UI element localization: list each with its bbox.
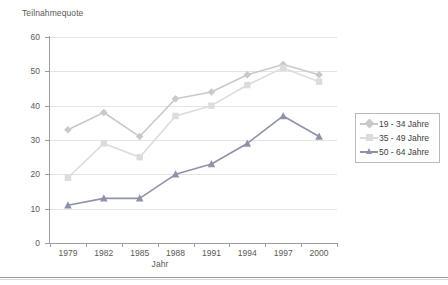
data-point-marker: [208, 102, 214, 108]
x-axis-title: Jahr: [0, 259, 320, 269]
data-point-marker: [65, 175, 71, 181]
legend-marker-icon: [360, 119, 378, 129]
x-axis-tick-mark: [194, 243, 195, 247]
bottom-divider-secondary: [0, 279, 448, 280]
x-axis-tick-mark: [301, 243, 302, 247]
series-3: [64, 112, 323, 208]
chart-screenshot: Teilnahmequote 0102030405060 19791982198…: [0, 0, 448, 285]
x-axis-tick-mark: [229, 243, 230, 247]
bottom-divider: [0, 277, 448, 278]
legend-item-2[interactable]: 35 - 49 Jahre: [358, 131, 437, 145]
y-axis-tick-label: 60: [14, 33, 40, 41]
data-point-marker: [208, 88, 216, 96]
series-2: [65, 65, 323, 181]
legend-marker-icon: [360, 133, 378, 143]
legend-item-3[interactable]: 50 - 64 Jahre: [358, 145, 437, 159]
data-point-marker: [244, 82, 250, 88]
data-point-marker: [316, 78, 322, 84]
legend-item-label: 35 - 49 Jahre: [378, 133, 429, 143]
data-point-marker: [64, 126, 72, 134]
chart-legend: 19 - 34 Jahre35 - 49 Jahre50 - 64 Jahre: [355, 113, 440, 163]
series-line: [68, 68, 319, 178]
x-axis-tick-mark: [337, 243, 338, 247]
data-point-marker: [279, 112, 287, 119]
y-axis-tick-label: 10: [14, 205, 40, 213]
y-axis-tick-label: 0: [14, 239, 40, 247]
data-point-marker: [208, 160, 216, 167]
x-axis-tick-mark: [122, 243, 123, 247]
data-point-marker: [172, 113, 178, 119]
y-axis-tick-label: 40: [14, 102, 40, 110]
y-axis-tick-label: 20: [14, 170, 40, 178]
legend-marker-icon: [360, 147, 378, 157]
x-axis-tick-mark: [265, 243, 266, 247]
data-point-marker: [136, 154, 142, 160]
data-point-marker: [101, 140, 107, 146]
series-line: [68, 64, 319, 136]
legend-item-1[interactable]: 19 - 34 Jahre: [358, 117, 437, 131]
chart-plot: [50, 37, 337, 243]
series-line: [68, 116, 319, 205]
x-axis-tick-label: 2000: [297, 249, 341, 257]
legend-item-label: 50 - 64 Jahre: [378, 147, 429, 157]
data-point-marker: [315, 71, 323, 79]
data-point-marker: [280, 65, 286, 71]
legend-item-label: 19 - 34 Jahre: [378, 119, 429, 129]
x-axis-tick-mark: [158, 243, 159, 247]
x-axis-tick-mark: [50, 243, 51, 247]
data-point-marker: [244, 71, 252, 79]
chart-title: Teilnahmequote: [22, 8, 83, 18]
x-axis-tick-mark: [86, 243, 87, 247]
y-axis-tick-label: 50: [14, 67, 40, 75]
y-axis-tick-label: 30: [14, 136, 40, 144]
series-1: [64, 61, 323, 141]
data-point-marker: [315, 133, 323, 140]
